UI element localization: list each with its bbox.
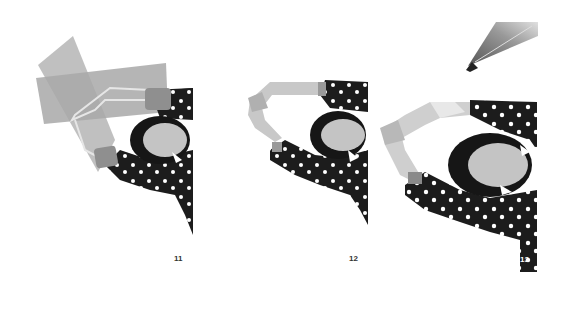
illustration-step-13 [370,0,567,314]
illustration-step-11 [0,0,200,314]
step-number: 13 [520,255,529,264]
step-panel-12: 12 [200,0,370,314]
step-number: 12 [349,254,358,263]
step-panel-11: 11 [0,0,200,314]
illustration-step-12 [200,0,370,314]
step-number: 11 [174,254,182,263]
step-panel-13: 13 [370,0,567,314]
